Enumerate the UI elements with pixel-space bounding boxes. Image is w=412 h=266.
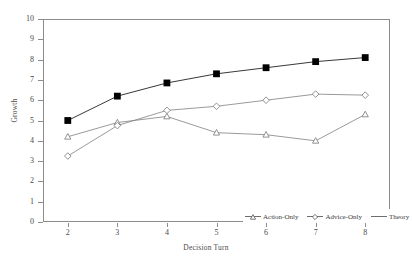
series-theory	[64, 54, 368, 124]
x-tick-label: 5	[205, 229, 229, 237]
x-tick-label: 7	[304, 229, 328, 237]
x-tick-label: 3	[105, 229, 129, 237]
triangle-open-icon	[245, 213, 261, 220]
x-tick-mark	[167, 223, 168, 227]
x-tick-mark	[266, 223, 267, 227]
chart-legend: Action-Only Advice-Only Theory	[243, 209, 411, 224]
diamond-open-icon	[307, 213, 323, 220]
chart-figure: 109876543210 Growth Decision Turn Action…	[0, 0, 412, 266]
legend-label-theory: Theory	[389, 213, 409, 221]
x-tick-label: 4	[155, 229, 179, 237]
series-action-only	[65, 111, 369, 143]
series-layer	[0, 0, 412, 266]
x-axis-title: Decision Turn	[0, 243, 412, 252]
x-tick-mark	[316, 223, 317, 227]
y-axis-title: Growth	[10, 81, 19, 141]
legend-label-action-only: Action-Only	[263, 213, 298, 221]
x-tick-label: 8	[353, 229, 377, 237]
legend-label-advice-only: Advice-Only	[325, 213, 362, 221]
x-tick-label: 2	[56, 229, 80, 237]
x-tick-mark	[68, 223, 69, 227]
legend-item-action-only[interactable]: Action-Only	[245, 213, 298, 221]
series-advice-only	[64, 91, 368, 160]
square-filled-icon	[371, 213, 387, 220]
x-tick-mark	[217, 223, 218, 227]
legend-item-theory[interactable]: Theory	[371, 213, 409, 221]
x-tick-mark	[117, 223, 118, 227]
x-tick-mark	[365, 223, 366, 227]
legend-item-advice-only[interactable]: Advice-Only	[307, 213, 362, 221]
x-tick-label: 6	[254, 229, 278, 237]
